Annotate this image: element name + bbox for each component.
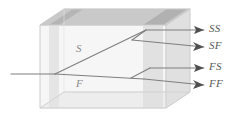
slab-one-front bbox=[49, 25, 59, 108]
box-right-face bbox=[166, 9, 190, 108]
label-slow-path: S bbox=[76, 43, 82, 54]
wave-splitting-diagram: S F SS SF FS FF bbox=[0, 0, 242, 128]
label-fs: FS bbox=[209, 61, 222, 72]
label-sf: SF bbox=[209, 40, 222, 51]
slab-two-front bbox=[143, 25, 163, 108]
label-ff: FF bbox=[209, 78, 223, 89]
ray-arrowheads bbox=[193, 26, 204, 89]
label-ss: SS bbox=[209, 23, 220, 34]
label-fast-path: F bbox=[76, 78, 83, 89]
diagram-canvas bbox=[0, 0, 242, 128]
